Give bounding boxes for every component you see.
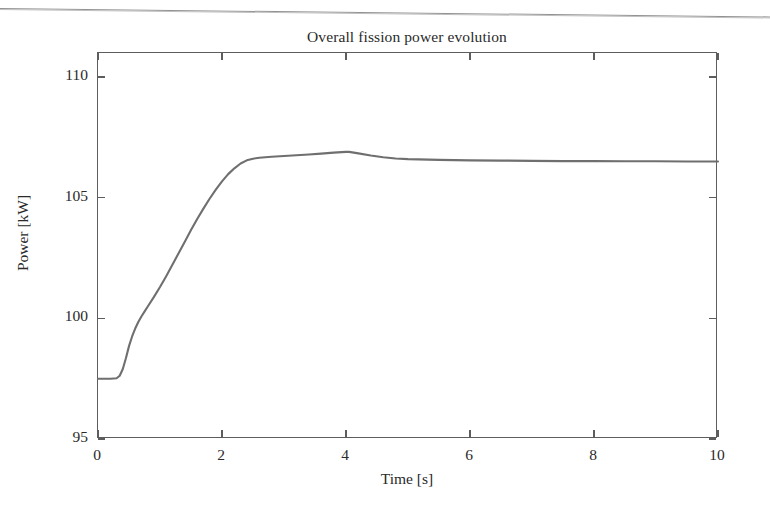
x-axis-title: Time [s] [97,470,717,488]
x-tick-label: 10 [687,446,747,464]
y-axis-title: Power [kW] [14,163,32,303]
x-tick-label: 4 [315,446,375,464]
x-tick-label: 2 [191,446,251,464]
x-tick-label: 6 [439,446,499,464]
x-tick-label: 0 [67,446,127,464]
x-tick-label: 8 [563,446,623,464]
